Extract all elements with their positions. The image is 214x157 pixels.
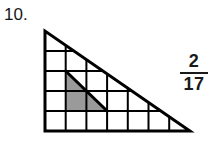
worksheet-problem-figure: 10. 2 17	[0, 0, 214, 157]
fraction-denominator: 17	[176, 75, 212, 94]
problem-number-label: 10.	[4, 6, 28, 24]
answer-fraction: 2 17	[176, 52, 212, 94]
fraction-numerator: 2	[176, 52, 212, 71]
